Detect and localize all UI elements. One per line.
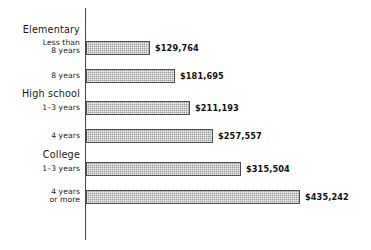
category-label: 4 years or more: [49, 188, 80, 205]
bar: [86, 41, 150, 55]
group-header-high-school: High school: [22, 89, 80, 99]
chart-row: 4 years $257,557: [0, 129, 371, 144]
bar-value-label: $181,695: [180, 69, 224, 83]
group-header-college: College: [43, 150, 80, 160]
chart-row: 8 years $181,695: [0, 69, 371, 84]
chart-row: 1–3 years $211,193: [0, 101, 371, 116]
bar: [86, 129, 213, 143]
category-label: Less than 8 years: [43, 39, 80, 56]
bar-chart: Elementary Less than 8 years $129,764 8 …: [0, 0, 371, 250]
category-label: 1–3 years: [42, 104, 80, 112]
category-label: 8 years: [51, 72, 80, 80]
bar: [86, 101, 190, 115]
chart-row: Less than 8 years $129,764: [0, 41, 371, 56]
bar-value-label: $315,504: [246, 162, 290, 176]
bar: [86, 162, 241, 176]
bar-value-label: $129,764: [155, 41, 199, 55]
bar: [86, 69, 175, 83]
category-label: 4 years: [51, 132, 80, 140]
bar: [86, 190, 300, 204]
bar-value-label: $211,193: [195, 101, 239, 115]
chart-row: 4 years or more $435,242: [0, 190, 371, 205]
bar-value-label: $435,242: [305, 190, 349, 204]
bar-value-label: $257,557: [218, 129, 262, 143]
chart-row: 1–3 years $315,504: [0, 162, 371, 177]
group-header-elementary: Elementary: [23, 25, 80, 35]
category-label: 1–3 years: [42, 165, 80, 173]
